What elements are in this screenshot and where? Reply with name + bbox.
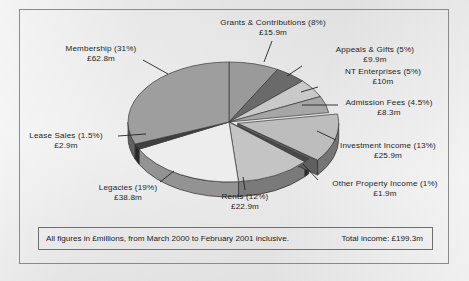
label-membership: Membership (31%) £62.8m: [45, 44, 157, 64]
label-legacies-value: £38.8m: [78, 193, 178, 203]
label-appeals-gifts: Appeals & Gifts (5%) £9.9m: [300, 45, 450, 65]
label-membership-name: Membership (31%): [66, 44, 137, 53]
label-admission-name: Admission Fees (4.5%): [345, 98, 432, 107]
label-leasesales-value: £2.9m: [16, 141, 116, 151]
label-nt-value: £10m: [308, 77, 458, 87]
label-nt-enterprises: NT Enterprises (5%) £10m: [308, 67, 458, 87]
footer-total-income: Total income: £199.3m: [342, 234, 423, 243]
label-otherprop-name: Other Property Income (1%): [332, 179, 437, 188]
label-lease-sales: Lease Sales (1.5%) £2.9m: [16, 131, 116, 151]
label-investment-value: £25.9m: [314, 151, 462, 161]
label-leasesales-name: Lease Sales (1.5%): [29, 131, 103, 140]
label-grants-contributions: Grants & Contributions (8%) £15.9m: [191, 18, 355, 38]
label-admission-value: £8.3m: [316, 108, 462, 118]
label-grants-value: £15.9m: [191, 28, 355, 38]
label-otherprop-value: £1.9m: [307, 189, 463, 199]
label-investment-name: Investment Income (13%): [340, 141, 436, 150]
label-appeals-value: £9.9m: [300, 55, 450, 65]
label-nt-name: NT Enterprises (5%): [345, 67, 421, 76]
label-legacies-name: Legacies (19%): [99, 183, 158, 192]
footer-box: All figures in £millions, from March 200…: [38, 227, 433, 250]
label-appeals-name: Appeals & Gifts (5%): [336, 45, 414, 54]
label-grants-name: Grants & Contributions (8%): [220, 18, 326, 27]
label-rents-name: Rents (12%): [222, 192, 269, 201]
label-legacies: Legacies (19%) £38.8m: [78, 183, 178, 203]
label-other-property-income: Other Property Income (1%) £1.9m: [307, 179, 463, 199]
label-investment-income: Investment Income (13%) £25.9m: [314, 141, 462, 161]
footer-note: All figures in £millions, from March 200…: [46, 234, 289, 243]
label-membership-value: £62.8m: [45, 54, 157, 64]
label-admission-fees: Admission Fees (4.5%) £8.3m: [316, 98, 462, 118]
label-rents: Rents (12%) £22.9m: [195, 192, 295, 212]
label-rents-value: £22.9m: [195, 202, 295, 212]
